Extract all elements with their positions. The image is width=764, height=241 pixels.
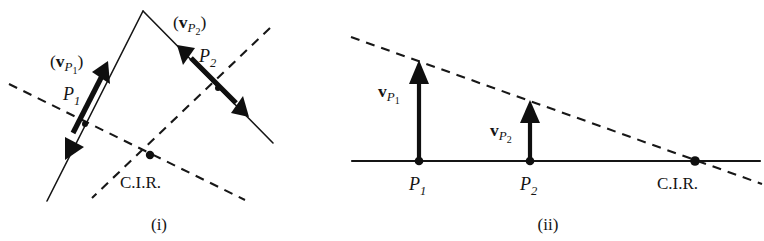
subscript-P: P (187, 20, 196, 35)
p-symbol: P (408, 174, 420, 194)
p-index: 1 (74, 94, 80, 108)
cir-label-panel-ii: C.I.R. (657, 174, 698, 193)
p-symbol: P (198, 46, 210, 66)
velocity-label-p1-panel-i: (vP1) (50, 51, 84, 76)
velocity-vector-p1-arrowhead-panel-ii (409, 60, 429, 84)
p-index: 1 (420, 184, 426, 198)
paren-close: ) (78, 51, 84, 71)
v-symbol: v (56, 51, 65, 71)
cir-marker-panel-i (146, 151, 154, 159)
subscript-P: P (498, 128, 507, 143)
velocity-label-p2-panel-ii: vP2 (490, 120, 512, 145)
figure-svg: (vP1) (vP2) P1 P2 C.I.R. (i) (0, 0, 764, 241)
p-index: 2 (210, 56, 216, 70)
v-symbol: v (490, 120, 499, 140)
point-marker-p2-panel-i (215, 85, 221, 91)
point-marker-p2-panel-ii (526, 157, 535, 166)
cir-label-panel-i: C.I.R. (120, 173, 161, 192)
p-symbol: P (519, 174, 531, 194)
velocity-vector-p1-arrowhead-down (65, 137, 84, 160)
velocity-label-p2-panel-i: (vP2) (173, 12, 207, 37)
p-index: 2 (531, 184, 537, 198)
subscript-P: P (64, 59, 73, 74)
paren-close: ) (201, 12, 207, 32)
subscript-index: 1 (395, 95, 400, 106)
panel-caption-i: (i) (151, 215, 167, 234)
subscript-P: P (386, 89, 395, 104)
p-symbol: P (62, 84, 74, 104)
point-label-p2-panel-ii: P2 (519, 174, 537, 198)
v-symbol: v (179, 12, 188, 32)
cir-marker-panel-ii (690, 156, 700, 166)
point-label-p1-panel-ii: P1 (408, 174, 426, 198)
panel-i-group: (vP1) (vP2) P1 P2 C.I.R. (i) (9, 11, 273, 234)
panel-ii-group: vP1 vP2 P1 P2 C.I.R. (ii) (351, 37, 762, 234)
point-marker-p1-panel-i (82, 121, 88, 127)
figure-root: (vP1) (vP2) P1 P2 C.I.R. (i) (0, 0, 764, 241)
panel-caption-ii: (ii) (538, 215, 559, 234)
velocity-label-p1-panel-ii: vP1 (378, 81, 400, 106)
point-label-p1-panel-i: P1 (62, 84, 80, 108)
point-marker-p1-panel-ii (415, 157, 424, 166)
subscript-index: 2 (507, 134, 512, 145)
v-symbol: v (378, 81, 387, 101)
